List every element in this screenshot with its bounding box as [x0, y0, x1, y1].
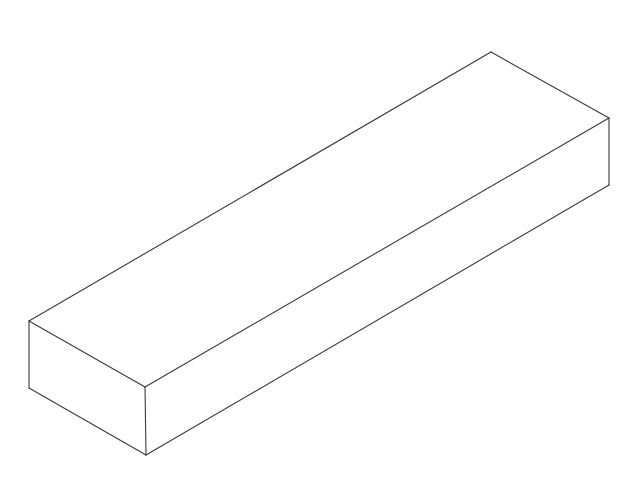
- front-vertical-edge: [145, 387, 146, 455]
- top-front-right-edge: [145, 118, 609, 387]
- isometric-box-drawing: [0, 0, 632, 477]
- top-back-right-edge: [491, 52, 609, 118]
- top-front-left-edge: [29, 321, 145, 387]
- bottom-left-edge: [29, 388, 146, 455]
- top-back-left-edge: [29, 52, 491, 321]
- diagram-canvas: [0, 0, 632, 477]
- bottom-right-edge: [146, 185, 609, 455]
